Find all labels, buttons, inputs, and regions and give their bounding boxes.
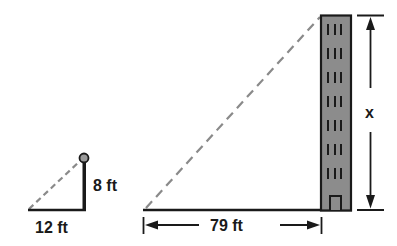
diagram-canvas: 8 ft 12 ft <box>0 0 397 246</box>
large-shadow-dashed-line <box>146 17 320 208</box>
pole-height-label: 8 ft <box>93 177 118 194</box>
pole-ball-icon <box>80 154 89 163</box>
building-icon <box>321 16 351 211</box>
pole <box>83 160 87 211</box>
height-dimension: x <box>357 16 384 211</box>
arrow-down-icon <box>366 195 375 209</box>
base-dimension: 79 ft <box>144 217 322 234</box>
large-triangle: x 79 ft <box>143 16 384 235</box>
small-base-label: 12 ft <box>35 219 69 236</box>
large-base-label: 79 ft <box>210 217 244 234</box>
building-height-label: x <box>365 104 374 121</box>
building-door <box>330 196 341 210</box>
arrow-left-icon <box>145 221 158 230</box>
arrow-up-icon <box>366 17 375 30</box>
arrow-right-icon <box>307 221 320 230</box>
small-shadow-dashed-line <box>29 160 81 209</box>
small-triangle: 8 ft 12 ft <box>28 154 118 237</box>
